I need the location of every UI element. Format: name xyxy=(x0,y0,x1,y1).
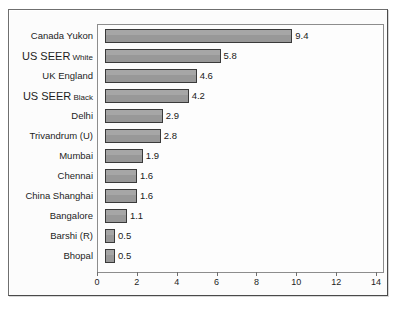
category-label: Barshi (R) xyxy=(50,226,93,246)
chart-figure: Age standardised incidence rates (per 10… xyxy=(8,9,388,296)
bar xyxy=(105,109,163,123)
bar-row: Mumbai1.9 xyxy=(9,146,388,166)
bar-row: Delhi2.9 xyxy=(9,106,388,126)
bar-value-label: 2.8 xyxy=(164,129,177,143)
bar-container: 9.4 xyxy=(105,29,292,43)
bar-container: 1.6 xyxy=(105,169,137,183)
x-axis-tick xyxy=(296,272,297,276)
category-label: UK England xyxy=(42,66,93,86)
bar xyxy=(105,249,115,263)
category-label: China Shanghai xyxy=(25,186,93,206)
category-label: Trivandrum (U) xyxy=(29,126,93,146)
bar-container: 4.2 xyxy=(105,89,189,103)
bar-container: 4.6 xyxy=(105,69,197,83)
category-label: Bangalore xyxy=(50,206,93,226)
category-label-main: US SEER xyxy=(22,50,70,62)
bar-container: 0.5 xyxy=(105,229,115,243)
bar-row: China Shanghai1.6 xyxy=(9,186,388,206)
bar-row: US SEER Black4.2 xyxy=(9,86,388,106)
bar-row: UK England4.6 xyxy=(9,66,388,86)
bar-row: Trivandrum (U)2.8 xyxy=(9,126,388,146)
category-label: US SEER White xyxy=(22,46,93,66)
bar-container: 0.5 xyxy=(105,249,115,263)
category-label-sub: White xyxy=(70,53,93,62)
x-axis-tick xyxy=(256,272,257,276)
bar xyxy=(105,189,137,203)
category-label: Delhi xyxy=(71,106,93,126)
bar xyxy=(105,229,115,243)
bar xyxy=(105,149,143,163)
bar-container: 2.9 xyxy=(105,109,163,123)
bar-value-label: 0.5 xyxy=(118,249,131,263)
bar-container: 2.8 xyxy=(105,129,161,143)
bar-container: 1.9 xyxy=(105,149,143,163)
bar-value-label: 1.1 xyxy=(130,209,143,223)
bar-value-label: 4.6 xyxy=(200,69,213,83)
bar-value-label: 1.6 xyxy=(140,189,153,203)
x-axis-tick xyxy=(336,272,337,276)
bar xyxy=(105,169,137,183)
category-label: Chennai xyxy=(58,166,93,186)
bar-row: Canada Yukon9.4 xyxy=(9,26,388,46)
x-axis-tick-label: 8 xyxy=(254,277,259,287)
bar xyxy=(105,29,292,43)
bar-row: Bangalore1.1 xyxy=(9,206,388,226)
category-label: Mumbai xyxy=(59,146,93,166)
bar-value-label: 1.9 xyxy=(146,149,159,163)
bar-row: Barshi (R)0.5 xyxy=(9,226,388,246)
x-axis-tick-label: 0 xyxy=(94,277,99,287)
x-axis-line xyxy=(97,272,384,273)
bar-container: 1.6 xyxy=(105,189,137,203)
bar xyxy=(105,209,127,223)
category-label: US SEER Black xyxy=(23,86,93,106)
x-axis-tick xyxy=(376,272,377,276)
bar-value-label: 4.2 xyxy=(192,89,205,103)
x-axis-tick xyxy=(137,272,138,276)
bar xyxy=(105,89,189,103)
category-label-main: US SEER xyxy=(23,90,71,102)
bar xyxy=(105,69,197,83)
bar-rows: Canada Yukon9.4US SEER White5.8UK Englan… xyxy=(9,26,388,276)
x-axis-tick-label: 2 xyxy=(134,277,139,287)
x-axis-tick xyxy=(97,272,98,276)
bar-container: 5.8 xyxy=(105,49,221,63)
x-axis-tick xyxy=(217,272,218,276)
x-axis-tick-label: 14 xyxy=(371,277,381,287)
category-label-sub: Black xyxy=(71,93,93,102)
bar xyxy=(105,49,221,63)
bar-value-label: 5.8 xyxy=(224,49,237,63)
bar-row: US SEER White5.8 xyxy=(9,46,388,66)
bar-row: Bhopal0.5 xyxy=(9,246,388,266)
bar-row: Chennai1.6 xyxy=(9,166,388,186)
bar-value-label: 1.6 xyxy=(140,169,153,183)
x-axis-tick-label: 6 xyxy=(214,277,219,287)
bar xyxy=(105,129,161,143)
x-axis-tick xyxy=(177,272,178,276)
category-label: Canada Yukon xyxy=(31,26,93,46)
bar-container: 1.1 xyxy=(105,209,127,223)
category-label: Bhopal xyxy=(63,246,93,266)
bar-value-label: 2.9 xyxy=(166,109,179,123)
x-axis: 02468101214 xyxy=(97,272,384,296)
bar-value-label: 9.4 xyxy=(295,29,308,43)
x-axis-tick-label: 12 xyxy=(331,277,341,287)
x-axis-tick-label: 10 xyxy=(291,277,301,287)
bar-value-label: 0.5 xyxy=(118,229,131,243)
x-axis-tick-label: 4 xyxy=(174,277,179,287)
